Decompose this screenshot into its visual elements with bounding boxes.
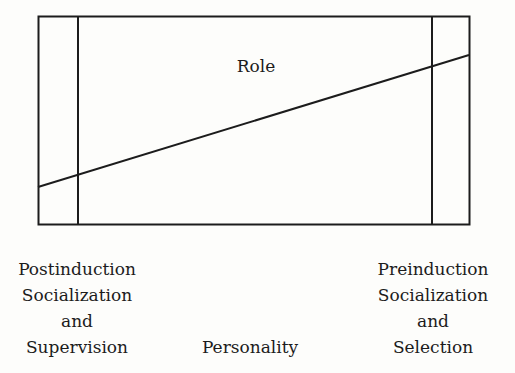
postinduction-label: Postinduction Socialization and Supervis… [2,256,152,360]
preinduction-line-3: and [358,308,508,334]
preinduction-line-1: Preinduction [358,256,508,282]
postinduction-line-1: Postinduction [2,256,152,282]
personality-label: Personality [180,334,320,360]
preinduction-label: Preinduction Socialization and Selection [358,256,508,360]
preinduction-line-2: Socialization [358,282,508,308]
postinduction-line-4: Supervision [2,334,152,360]
preinduction-line-4: Selection [358,334,508,360]
role-label: Role [226,56,286,76]
postinduction-line-3: and [2,308,152,334]
postinduction-line-2: Socialization [2,282,152,308]
